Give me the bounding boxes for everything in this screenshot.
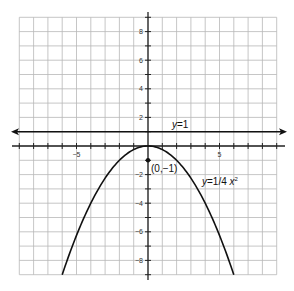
y-tick-label: 2 — [139, 114, 143, 121]
directrix-label: y=1 — [171, 119, 189, 130]
y-tick-label: −4 — [135, 200, 143, 207]
point-label: (0,−1) — [151, 163, 177, 174]
y-tick-label: 4 — [139, 85, 143, 92]
y-tick-label: −2 — [135, 171, 143, 178]
y-tick-label: 8 — [139, 28, 143, 35]
focus-point — [146, 158, 150, 162]
y-tick-label: 6 — [139, 57, 143, 64]
y-tick-label: −6 — [135, 228, 143, 235]
coordinate-plane: −558642−2−4−6−8 (0,−1) y=1 y=1/4 x2 — [0, 0, 294, 291]
x-tick-label: −5 — [73, 151, 81, 158]
x-tick-label: 5 — [218, 151, 222, 158]
y-tick-label: −8 — [135, 257, 143, 264]
parabola-label: y=1/4 x2 — [201, 176, 239, 187]
directrix-line — [11, 128, 287, 135]
